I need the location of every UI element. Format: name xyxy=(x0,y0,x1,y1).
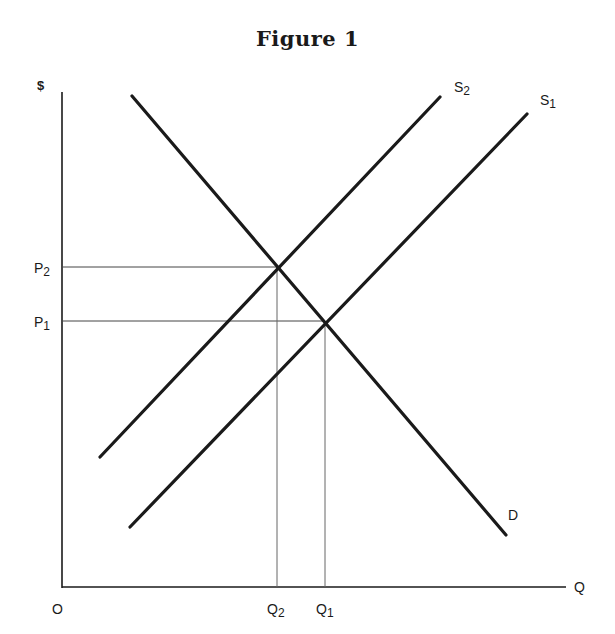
curve-label-s1: S1 xyxy=(540,92,556,111)
origin-label: O xyxy=(52,601,63,617)
y-axis-label: $ xyxy=(37,78,45,93)
x-axis-label: Q xyxy=(574,579,585,595)
supply-curve-s2 xyxy=(100,97,440,457)
supply-demand-diagram: $ Q O P2 P1 Q2 Q1 S2 S1 D xyxy=(0,0,615,634)
price-label-p1: P1 xyxy=(34,314,50,333)
price-label-p2: P2 xyxy=(34,260,50,279)
curve-label-s2: S2 xyxy=(454,79,470,98)
demand-curve-d xyxy=(132,96,506,535)
curve-label-d: D xyxy=(508,507,518,523)
quantity-label-q2: Q2 xyxy=(267,601,285,620)
quantity-label-q1: Q1 xyxy=(316,601,334,620)
